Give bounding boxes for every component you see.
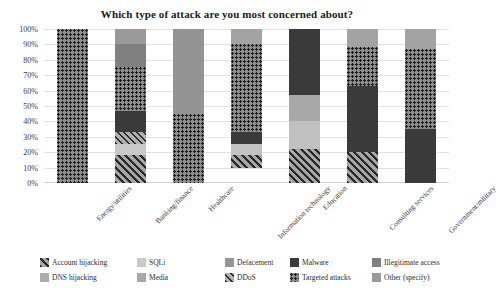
legend-label: DDoS (237, 273, 256, 282)
legend-swatch-icon (40, 273, 49, 282)
bar-segment[interactable] (405, 49, 436, 129)
bar-segment[interactable] (231, 29, 262, 44)
bar-segment[interactable] (347, 152, 378, 183)
legend-label: SQLi (149, 258, 165, 267)
bar-segment[interactable] (289, 29, 320, 95)
legend-swatch-icon (225, 273, 234, 282)
bar-segment[interactable] (115, 132, 146, 144)
y-axis: 100%90%80%70%60%50%40%30%20%10%0% (0, 29, 41, 183)
bar-segment[interactable] (115, 29, 146, 44)
bar-segment[interactable] (289, 149, 320, 183)
bars-layer (44, 29, 449, 183)
x-axis-tick-label: Information technology (275, 184, 332, 241)
y-axis-tick-label: 40% (23, 117, 38, 126)
bar-segment[interactable] (115, 67, 146, 110)
y-axis-tick-label: 80% (23, 55, 38, 64)
bar-government-military[interactable] (405, 29, 436, 183)
legend-swatch-icon (372, 273, 381, 282)
legend-swatch-icon (290, 258, 299, 267)
y-axis-tick-label: 50% (23, 102, 38, 111)
legend-label: Targeted attacks (302, 273, 351, 282)
legend-swatch-icon (290, 273, 299, 282)
legend-label: Illegitimate access (384, 258, 440, 267)
legend-label: Defacement (237, 258, 273, 267)
legend-label: Malware (302, 258, 329, 267)
bar-banking-finance[interactable] (115, 29, 146, 183)
y-axis-tick-label: 10% (23, 163, 38, 172)
bar-segment[interactable] (231, 132, 262, 144)
bar-segment[interactable] (173, 29, 204, 114)
bar-segment[interactable] (115, 144, 146, 155)
legend-swatch-icon (137, 273, 146, 282)
y-axis-tick-label: 20% (23, 148, 38, 157)
bar-segment[interactable] (289, 95, 320, 121)
legend-item[interactable]: Targeted attacks (290, 273, 351, 282)
legend-swatch-icon (372, 258, 381, 267)
bar-segment[interactable] (115, 155, 146, 183)
legend-swatch-icon (40, 258, 49, 267)
x-axis-tick-label: Energy/utilities (94, 184, 133, 223)
x-axis-labels: Energy/utilitiesBanking/financeHealthcar… (44, 184, 449, 246)
y-axis-tick-label: 60% (23, 86, 38, 95)
legend-item[interactable]: Malware (290, 258, 329, 267)
legend-item[interactable]: DNS hijacking (40, 273, 97, 282)
bar-segment[interactable] (289, 121, 320, 149)
bar-segment[interactable] (173, 114, 204, 183)
bar-segment[interactable] (231, 144, 262, 155)
legend-item[interactable]: Other (specify) (372, 273, 430, 282)
bar-segment[interactable] (57, 29, 88, 183)
bar-segment[interactable] (347, 29, 378, 47)
legend-label: DNS hijacking (52, 273, 97, 282)
page-title: Which type of attack are you most concer… (0, 8, 454, 20)
legend-item[interactable]: Defacement (225, 258, 273, 267)
x-axis-tick-label: Government/military (447, 184, 498, 235)
bar-information-technology[interactable] (231, 29, 262, 183)
bar-segment[interactable] (231, 155, 262, 167)
legend-item[interactable]: Media (137, 273, 168, 282)
bar-energy-utilities[interactable] (57, 29, 88, 183)
x-axis-tick-label: Healthcare (206, 184, 235, 213)
bar-healthcare[interactable] (173, 29, 204, 183)
legend-label: Media (149, 273, 168, 282)
legend-swatch-icon (225, 258, 234, 267)
legend-item[interactable]: DDoS (225, 273, 256, 282)
bar-segment[interactable] (405, 129, 436, 183)
y-axis-tick-label: 0% (27, 179, 38, 188)
y-axis-tick-label: 90% (23, 40, 38, 49)
y-axis-tick-label: 100% (19, 25, 38, 34)
y-axis-tick-label: 70% (23, 71, 38, 80)
bar-segment[interactable] (347, 47, 378, 86)
plot-area (44, 29, 449, 183)
bar-segment[interactable] (405, 29, 436, 49)
bar-consulting-services[interactable] (347, 29, 378, 183)
legend-swatch-icon (137, 258, 146, 267)
legend-item[interactable]: Illegitimate access (372, 258, 440, 267)
x-axis-tick-label: Banking/finance (153, 184, 194, 225)
bar-segment[interactable] (347, 86, 378, 152)
legend-label: Account hijacking (52, 258, 107, 267)
y-axis-tick-label: 30% (23, 132, 38, 141)
bar-education[interactable] (289, 29, 320, 183)
bar-segment[interactable] (115, 111, 146, 133)
x-axis-tick-label: Consulting services (387, 184, 435, 232)
legend: Account hijackingSQLiDefacementMalwareIl… (0, 258, 454, 300)
legend-item[interactable]: Account hijacking (40, 258, 107, 267)
bar-segment[interactable] (231, 44, 262, 132)
legend-label: Other (specify) (384, 273, 430, 282)
legend-row: Account hijackingSQLiDefacementMalwareIl… (0, 258, 454, 273)
bar-segment[interactable] (115, 44, 146, 67)
legend-row: DNS hijackingMediaDDoSTargeted attacksOt… (0, 273, 454, 288)
legend-item[interactable]: SQLi (137, 258, 165, 267)
